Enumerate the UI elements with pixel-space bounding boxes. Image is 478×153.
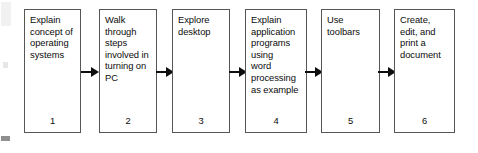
node-4-number: 4 — [246, 115, 306, 126]
flowchart-node-3[interactable]: Explore desktop 3 — [172, 9, 230, 133]
node-6-number: 6 — [395, 115, 454, 126]
node-2-label: Walk through steps involved in turning o… — [105, 14, 153, 84]
scan-artifact-mid-left — [3, 62, 8, 68]
flowchart-node-5[interactable]: Use toolbars 5 — [321, 9, 380, 133]
node-3-label: Explore desktop — [178, 14, 226, 37]
scan-artifact-bottom-left — [1, 136, 10, 141]
node-1-number: 1 — [25, 115, 80, 126]
node-2-number: 2 — [100, 115, 156, 126]
flowchart-node-2[interactable]: Walk through steps involved in turning o… — [99, 9, 157, 133]
node-5-number: 5 — [322, 115, 379, 126]
flowchart-node-1[interactable]: Explain concept of operating systems 1 — [24, 9, 81, 133]
arrow-head — [91, 67, 99, 77]
right-arrow-icon — [81, 66, 99, 78]
scan-artifact-top-left — [1, 2, 11, 26]
flowchart-node-6[interactable]: Create, edit, and print a document 6 — [394, 9, 455, 133]
node-1-label: Explain concept of operating systems — [30, 14, 77, 60]
node-4-label: Explain application programs using word … — [251, 14, 303, 95]
node-6-label: Create, edit, and print a document — [400, 14, 451, 60]
node-5-label: Use toolbars — [327, 14, 376, 37]
node-3-number: 3 — [173, 115, 229, 126]
flowchart-canvas: Explain concept of operating systems 1 W… — [0, 0, 478, 153]
flowchart-node-4[interactable]: Explain application programs using word … — [245, 9, 307, 133]
